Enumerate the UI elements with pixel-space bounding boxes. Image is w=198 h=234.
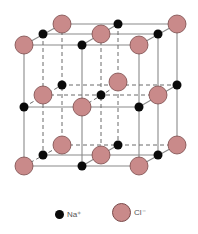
na-ion [154,151,163,160]
cl-ion [92,25,110,43]
cl-ion [73,98,91,116]
cl-ion [15,157,33,175]
legend-label-cl: Cl⁻ [134,208,146,217]
cl-ion [130,36,148,54]
cl-ion [15,36,33,54]
ions [15,15,186,175]
cl-ion [34,86,52,104]
na-ion [173,81,182,90]
legend-item-na: Na⁺ [55,210,81,219]
na-ion [114,20,123,29]
na-ion-icon [55,210,64,219]
cl-ion [53,15,71,33]
cl-ion [130,157,148,175]
cl-ion [149,86,167,104]
na-ion [78,41,87,50]
cl-ion [168,15,186,33]
cl-ion [109,73,127,91]
na-ion [39,30,48,39]
cl-ion-icon [112,203,131,222]
nacl-lattice-diagram [0,0,198,234]
na-ion [114,141,123,150]
na-ion [20,103,29,112]
cl-ion [53,136,71,154]
legend-item-cl: Cl⁻ [112,203,146,222]
cl-ion [92,146,110,164]
na-ion [58,81,67,90]
na-ion [39,151,48,160]
na-ion [97,91,106,100]
na-ion [135,103,144,112]
legend: Na⁺ Cl⁻ [0,203,198,229]
na-ion [154,30,163,39]
cl-ion [168,136,186,154]
legend-label-na: Na⁺ [67,210,81,219]
na-ion [78,162,87,171]
